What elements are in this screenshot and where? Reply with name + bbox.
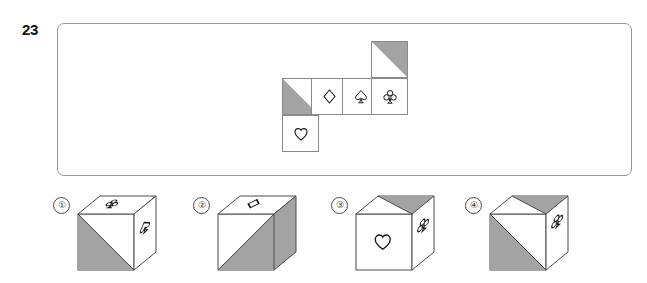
option-4-label: ④	[465, 197, 482, 214]
heart-icon	[283, 116, 318, 151]
option-2-cube	[210, 189, 310, 281]
option-3-label: ③	[331, 197, 348, 214]
answer-options-row: ①	[0, 186, 647, 283]
club-icon	[372, 79, 407, 114]
upper-right-triangle-shading	[372, 42, 407, 77]
option-2[interactable]: ②	[190, 186, 350, 283]
option-1[interactable]: ①	[50, 186, 210, 283]
net-cell-top-right	[371, 41, 408, 78]
option-4[interactable]: ④	[462, 186, 622, 283]
option-2-label: ②	[193, 197, 210, 214]
option-3-cube	[348, 189, 448, 281]
stimulus-panel	[57, 23, 632, 176]
net-cell-row2-col1	[282, 115, 319, 152]
option-1-cube	[70, 189, 170, 281]
net-cell-row1-col4	[371, 78, 408, 115]
question-number: 23	[22, 21, 38, 38]
unfolded-cube-net	[58, 24, 633, 177]
option-1-label: ①	[53, 197, 70, 214]
option-4-cube	[482, 189, 582, 281]
